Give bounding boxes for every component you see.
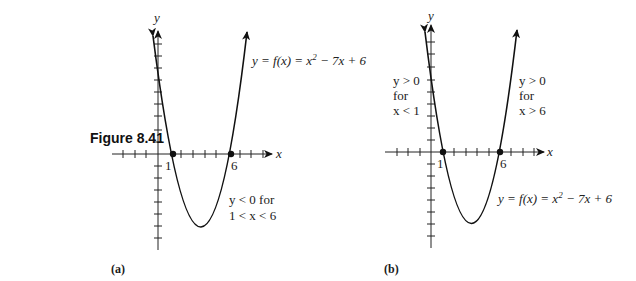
- x-axis-label: x: [547, 144, 553, 160]
- root-label-6: 6: [231, 158, 238, 174]
- panel-b-plot: [385, 25, 544, 248]
- negative-region-note: y < 0 for 1 < x < 6: [229, 192, 276, 224]
- right-positive-note: y > 0 for x > 6: [519, 73, 546, 118]
- figure-title: Figure 8.41: [90, 130, 164, 146]
- root-label-1: 1: [165, 158, 172, 174]
- root-point-6: [228, 151, 234, 157]
- y-axis-label: y: [428, 8, 434, 24]
- x-axis-label: x: [276, 146, 282, 162]
- root-point-1: [440, 149, 446, 155]
- root-point-6: [497, 149, 503, 155]
- root-point-1: [170, 151, 176, 157]
- root-label-1: 1: [437, 156, 444, 172]
- root-label-6: 6: [500, 156, 507, 172]
- y-axis-label: y: [154, 10, 160, 26]
- panel-b-label: (b): [384, 262, 399, 277]
- equation-label: y = f(x) = x2 − 7x + 6: [498, 191, 612, 207]
- left-positive-note: y > 0 for x < 1: [393, 73, 420, 118]
- equation-label: y = f(x) = x2 − 7x + 6: [252, 53, 366, 69]
- panel-a-label: (a): [111, 262, 125, 277]
